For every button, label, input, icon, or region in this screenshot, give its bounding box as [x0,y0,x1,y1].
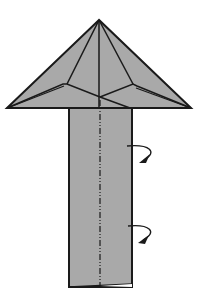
origami-diagram [0,0,204,303]
stem [69,108,132,287]
roof [7,20,191,108]
